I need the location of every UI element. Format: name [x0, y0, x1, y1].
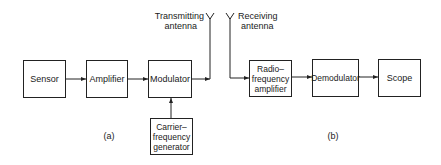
transmitting-antenna-label-line-1: Transmitting: [152, 11, 204, 21]
modulator-label: Modulator: [150, 74, 190, 84]
arrowhead-modulator-output: [205, 77, 210, 81]
amplifier-label: Amplifier: [89, 74, 124, 84]
scope-label: Scope: [387, 73, 413, 83]
radio-frequency-amplifier-block: Radio– frequency amplifier: [249, 60, 292, 97]
caption-b: (b): [324, 131, 342, 141]
scope-block: Scope: [378, 59, 421, 97]
carrier-label-line-2: frequency: [153, 132, 190, 142]
sensor-label: Sensor: [30, 74, 59, 84]
caption-a: (a): [100, 131, 118, 141]
receiving-antenna-label-line-1: Receiving: [238, 11, 278, 21]
carrier-label-line-3: generator: [153, 142, 189, 152]
amplifier-block: Amplifier: [86, 60, 128, 98]
rf-amplifier-label-line-2: frequency: [252, 74, 289, 84]
demodulator-block: Demodulator: [312, 59, 359, 97]
rf-amplifier-label-line-1: Radio–: [257, 64, 284, 74]
transmitting-antenna-label: Transmitting antenna: [152, 11, 204, 31]
transmitting-antenna-icon: [206, 13, 214, 19]
sensor-block: Sensor: [23, 60, 66, 98]
carrier-label-line-1: Carrier–: [156, 122, 187, 132]
receiving-antenna-label: Receiving antenna: [238, 11, 278, 31]
transmitting-antenna-label-line-2: antenna: [152, 21, 204, 31]
connections-layer: [0, 0, 441, 165]
modulator-block: Modulator: [148, 60, 192, 98]
carrier-frequency-generator-block: Carrier– frequency generator: [150, 118, 193, 155]
receiving-antenna-label-line-2: antenna: [238, 21, 278, 31]
rf-amplifier-label-line-3: amplifier: [254, 84, 286, 94]
demodulator-label: Demodulator: [311, 73, 360, 83]
